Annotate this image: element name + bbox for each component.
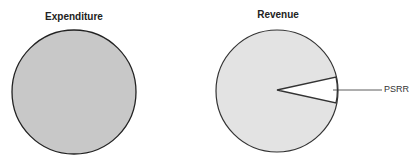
psrr-label: PSRR — [384, 84, 409, 94]
revenue-pie — [216, 30, 382, 152]
pie-charts — [0, 0, 420, 159]
expenditure-pie — [12, 30, 136, 154]
